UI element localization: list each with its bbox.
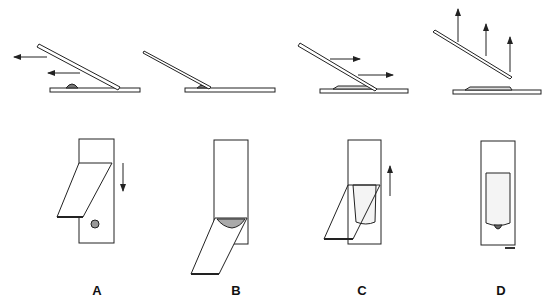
smear-technique-diagram: [0, 0, 551, 304]
step-label-d: D: [496, 283, 505, 298]
smear-film: [353, 185, 376, 224]
step-d-top-view: [481, 141, 515, 249]
spreader-slide: [37, 44, 120, 90]
smear-film: [465, 87, 512, 90]
step-label-c: C: [357, 283, 366, 298]
spreader-slide: [143, 51, 211, 89]
spreader-slide: [191, 218, 247, 274]
figure-code-mark: [505, 247, 515, 249]
spreader-slide: [433, 30, 512, 79]
step-c-side-view: [298, 43, 408, 93]
step-a-top-view: [57, 139, 123, 243]
step-a-side-view: [14, 44, 140, 92]
drop: [66, 84, 78, 88]
finished-smear: [486, 173, 510, 226]
step-b-top-view: [191, 140, 248, 274]
spreader-slide: [298, 43, 377, 91]
base-slide: [453, 90, 541, 94]
step-label-b: B: [231, 283, 240, 298]
base-slide: [320, 89, 408, 93]
base-slide: [50, 88, 140, 92]
step-c-top-view: [324, 140, 390, 244]
step-b-side-view: [143, 51, 275, 92]
base-slide: [185, 88, 275, 92]
step-label-a: A: [92, 283, 101, 298]
drop: [91, 220, 99, 228]
step-d-side-view: [433, 9, 541, 94]
